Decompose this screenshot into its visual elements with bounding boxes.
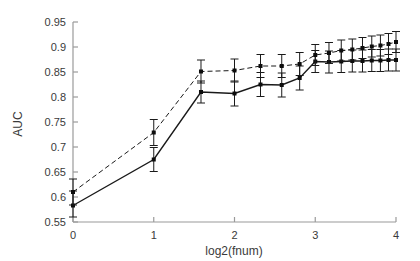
y-tick-label: 0.65 <box>45 166 66 178</box>
data-point-marker <box>233 92 237 96</box>
data-point-marker <box>350 48 354 52</box>
data-point-marker <box>280 64 284 68</box>
data-point-marker <box>394 40 398 44</box>
data-point-marker <box>71 190 75 194</box>
x-axis-title: log2(fnum) <box>205 244 262 258</box>
data-point-marker <box>394 58 398 62</box>
data-point-marker <box>370 59 374 63</box>
y-tick-labels: 0.550.60.650.70.750.80.850.90.95 <box>45 16 66 228</box>
data-point-marker <box>386 42 390 46</box>
data-point-marker <box>360 59 364 63</box>
data-point-marker <box>298 76 302 80</box>
data-series <box>69 32 400 218</box>
data-point-marker <box>152 158 156 162</box>
y-tick-label: 0.9 <box>51 41 66 53</box>
data-point-marker <box>199 70 203 74</box>
y-tick-label: 0.55 <box>45 216 66 228</box>
y-axis-title: AUC <box>11 111 25 137</box>
data-point-marker <box>152 131 156 135</box>
data-point-marker <box>313 53 317 57</box>
data-point-marker <box>339 49 343 53</box>
data-point-marker <box>199 90 203 94</box>
x-tick-labels: 01234 <box>70 229 399 241</box>
data-point-marker <box>259 83 263 87</box>
chart-figure: 0.550.60.650.70.750.80.850.90.95 01234 l… <box>0 0 420 261</box>
y-tick-label: 0.7 <box>51 141 66 153</box>
y-tick-label: 0.8 <box>51 91 66 103</box>
data-point-marker <box>378 44 382 48</box>
y-tick-label: 0.95 <box>45 16 66 28</box>
x-tick-label: 2 <box>231 229 237 241</box>
data-point-marker <box>280 83 284 87</box>
x-tick-label: 0 <box>70 229 76 241</box>
chart-canvas: 0.550.60.650.70.750.80.850.90.95 01234 l… <box>0 0 420 261</box>
y-tick-label: 0.6 <box>51 191 66 203</box>
data-point-marker <box>378 59 382 63</box>
data-point-marker <box>233 69 237 73</box>
y-tick-label: 0.85 <box>45 66 66 78</box>
data-point-marker <box>259 64 263 68</box>
axes <box>73 22 396 222</box>
x-tick-label: 1 <box>151 229 157 241</box>
data-point-marker <box>327 51 331 55</box>
data-point-marker <box>360 46 364 50</box>
x-tick-label: 3 <box>312 229 318 241</box>
data-point-marker <box>386 58 390 62</box>
x-tick-marks <box>73 217 396 222</box>
data-point-marker <box>298 62 302 66</box>
x-tick-label: 4 <box>393 229 399 241</box>
y-tick-label: 0.75 <box>45 116 66 128</box>
data-point-marker <box>370 45 374 49</box>
